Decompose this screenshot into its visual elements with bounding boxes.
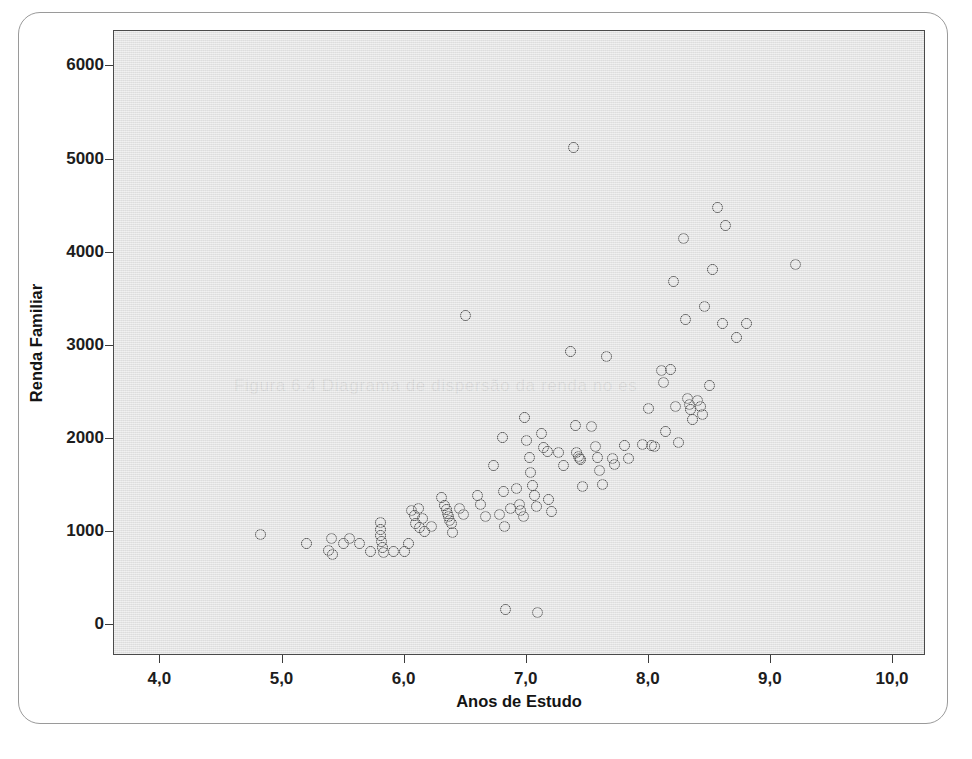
data-point xyxy=(597,479,608,490)
data-point xyxy=(577,481,588,492)
x-tick-label: 6,0 xyxy=(392,669,416,689)
x-tick-label: 10,0 xyxy=(875,669,908,689)
y-tick-label: 5000 xyxy=(48,149,104,169)
data-point xyxy=(590,441,601,452)
data-point xyxy=(497,432,508,443)
data-point xyxy=(532,607,543,618)
data-point xyxy=(388,546,399,557)
y-tick-mark xyxy=(105,65,113,66)
x-tick-label: 5,0 xyxy=(270,669,294,689)
y-tick-label: 4000 xyxy=(48,242,104,262)
x-tick-mark xyxy=(770,655,771,663)
data-point xyxy=(660,426,671,437)
data-point xyxy=(699,301,710,312)
x-tick-label: 8,0 xyxy=(636,669,660,689)
y-tick-mark xyxy=(105,159,113,160)
data-point xyxy=(658,377,669,388)
data-point xyxy=(519,412,530,423)
data-point xyxy=(543,494,554,505)
y-tick-label: 1000 xyxy=(48,521,104,541)
data-point xyxy=(712,202,723,213)
data-point xyxy=(403,538,414,549)
data-point xyxy=(480,511,491,522)
data-point xyxy=(546,506,557,517)
data-point xyxy=(741,318,752,329)
y-tick-mark xyxy=(105,438,113,439)
x-tick-label: 9,0 xyxy=(758,669,782,689)
data-point xyxy=(643,403,654,414)
data-point xyxy=(494,509,505,520)
data-point xyxy=(731,332,742,343)
data-point xyxy=(609,459,620,470)
data-point xyxy=(426,521,437,532)
x-tick-label: 4,0 xyxy=(148,669,172,689)
x-tick-mark xyxy=(159,655,160,663)
x-tick-mark xyxy=(404,655,405,663)
data-point xyxy=(458,509,469,520)
data-point xyxy=(594,465,605,476)
y-tick-label: 2000 xyxy=(48,428,104,448)
y-tick-label: 3000 xyxy=(48,335,104,355)
data-point xyxy=(678,233,689,244)
data-point xyxy=(697,409,708,420)
data-point xyxy=(498,486,509,497)
data-point xyxy=(521,435,532,446)
x-tick-label: 7,0 xyxy=(514,669,538,689)
data-point xyxy=(586,421,597,432)
data-point xyxy=(326,533,337,544)
data-point xyxy=(536,428,547,439)
x-tick-mark xyxy=(892,655,893,663)
y-tick-mark xyxy=(105,531,113,532)
scatter-chart: Figura 6.4 Diagrama de dispersão da rend… xyxy=(0,0,972,759)
data-point xyxy=(568,142,579,153)
data-point xyxy=(327,549,338,560)
data-point xyxy=(704,380,715,391)
data-point xyxy=(529,490,540,501)
data-point xyxy=(518,511,529,522)
y-tick-mark xyxy=(105,624,113,625)
data-point xyxy=(668,276,679,287)
data-point xyxy=(665,364,676,375)
x-axis-title: Anos de Estudo xyxy=(113,692,925,711)
data-point xyxy=(542,446,553,457)
data-point xyxy=(790,259,801,270)
data-point xyxy=(365,546,376,557)
y-tick-label: 6000 xyxy=(48,55,104,75)
x-tick-mark xyxy=(648,655,649,663)
y-tick-label: 0 xyxy=(48,614,104,634)
data-point xyxy=(707,264,718,275)
data-point xyxy=(565,346,576,357)
data-point xyxy=(553,447,564,458)
data-point xyxy=(524,452,535,463)
data-point xyxy=(720,220,731,231)
data-point xyxy=(488,460,499,471)
y-tick-mark xyxy=(105,252,113,253)
show-through-text: Figura 6.4 Diagrama de dispersão da rend… xyxy=(234,376,637,396)
data-point xyxy=(601,351,612,362)
data-point xyxy=(649,441,660,452)
x-tick-mark xyxy=(282,655,283,663)
data-point xyxy=(670,401,681,412)
data-point xyxy=(673,437,684,448)
data-point xyxy=(511,483,522,494)
data-point xyxy=(592,452,603,463)
data-point xyxy=(558,460,569,471)
data-point xyxy=(680,314,691,325)
data-point xyxy=(255,529,266,540)
data-point xyxy=(500,604,511,615)
plot-area: Figura 6.4 Diagrama de dispersão da rend… xyxy=(113,30,925,655)
data-point xyxy=(301,538,312,549)
x-tick-mark xyxy=(526,655,527,663)
data-point xyxy=(354,538,365,549)
data-point xyxy=(619,440,630,451)
y-tick-mark xyxy=(105,345,113,346)
data-point xyxy=(570,420,581,431)
data-point xyxy=(499,521,510,532)
y-axis-title: Renda Familiar xyxy=(27,284,46,402)
data-point xyxy=(575,454,586,465)
data-point xyxy=(531,501,542,512)
data-point xyxy=(460,310,471,321)
data-point xyxy=(623,453,634,464)
data-point xyxy=(525,467,536,478)
data-point xyxy=(447,527,458,538)
